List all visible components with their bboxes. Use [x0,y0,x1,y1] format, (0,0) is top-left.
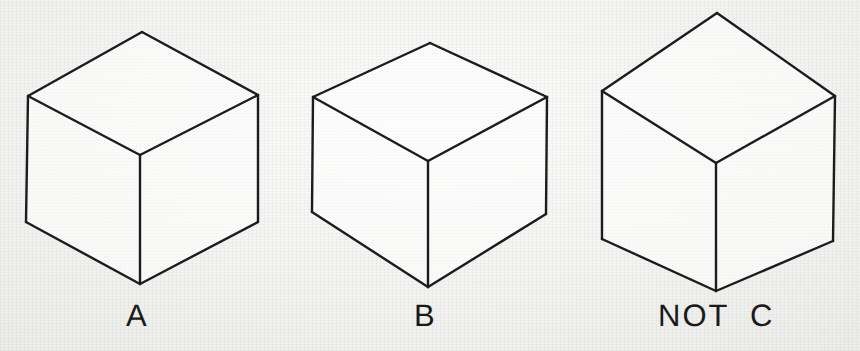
cube-c [602,13,835,291]
cube-c-label: NOT C [658,300,775,331]
cube-b-edge-vertical-right [546,97,547,214]
cube-a-label: A [126,300,148,331]
figure-root: A B NOT C [0,0,860,351]
cube-b-label: B [414,300,436,331]
cube-b-edge-vertical-left [312,97,313,212]
cube-b [312,43,547,287]
cube-a [26,32,258,284]
